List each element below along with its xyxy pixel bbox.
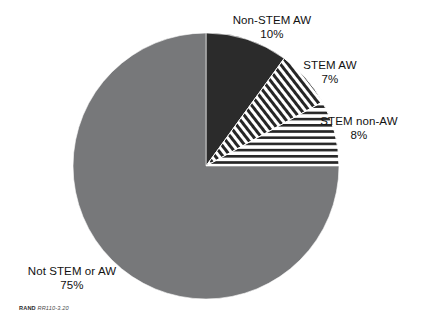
report-number: RR110-3.20 <box>37 305 68 311</box>
slice-label-stem-aw: STEM AW 7% <box>268 59 392 86</box>
slice-label-non-stem-aw: Non-STEM AW 10% <box>211 14 333 41</box>
rand-logo-text: RAND <box>19 305 36 311</box>
slice-label-name: STEM non-AW <box>296 115 422 129</box>
slice-label-stem-non-aw: STEM non-AW 8% <box>296 115 422 142</box>
slice-label-not-stem-or-aw: Not STEM or AW 75% <box>4 265 140 292</box>
slice-label-name: Not STEM or AW <box>4 265 140 279</box>
rand-credit-line: RAND RR110-3.20 <box>19 305 69 311</box>
slice-label-name: STEM AW <box>268 59 392 73</box>
slice-label-value: 75% <box>4 279 140 293</box>
slice-label-value: 10% <box>211 28 333 42</box>
slice-label-value: 7% <box>268 73 392 87</box>
slice-label-value: 8% <box>296 129 422 143</box>
slice-label-name: Non-STEM AW <box>211 14 333 28</box>
pie-chart-figure: Non-STEM AW 10% STEM AW 7% STEM non-AW 8… <box>0 0 425 329</box>
